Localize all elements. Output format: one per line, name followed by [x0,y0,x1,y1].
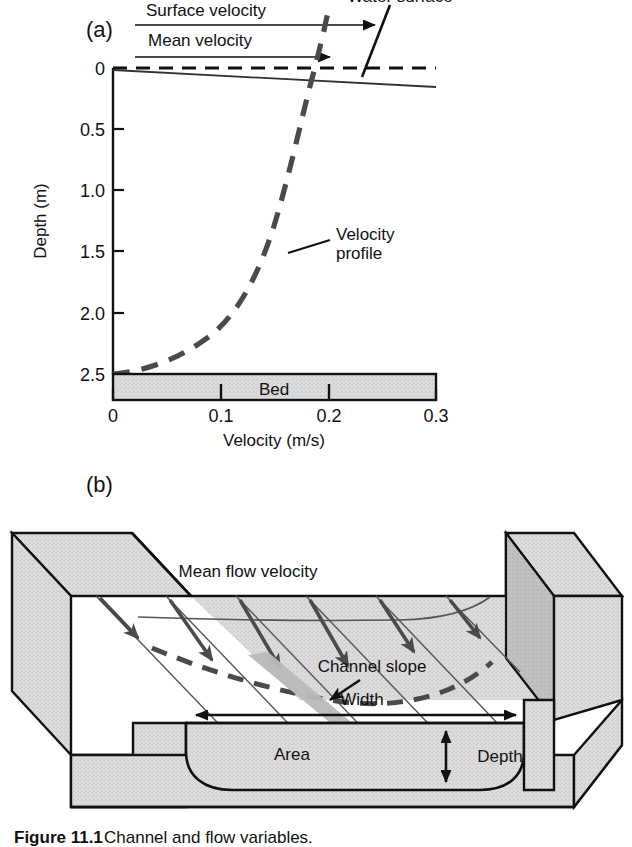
y-tick-label-1: 0.5 [80,120,105,140]
depth-label: Depth [477,747,522,766]
x-tick-label-3: 0.3 [423,406,448,426]
x-tick-label-1: 0.1 [208,406,233,426]
surface-velocity-label: Surface velocity [146,1,266,20]
figure-svg: (a) Surface velocity Mean velocity Water… [0,0,632,847]
caption-bold-part: Figure 11.1 [14,828,103,847]
right-outer-face [554,596,622,720]
y-tick-label-0: 0 [95,59,105,79]
panel-b-label: (b) [86,472,113,497]
velocity-profile-label-line1: Velocity [336,225,395,244]
near-right-bank-face [524,700,554,790]
y-tick-label-5: 2.5 [80,365,105,385]
y-tick-label-2: 1.0 [80,181,105,201]
area-label: Area [274,745,310,764]
mean-flow-velocity-label: Mean flow velocity [179,562,318,581]
x-tick-label-0: 0 [108,406,118,426]
water-surface-label: Water surface [347,0,452,6]
y-tick-label-3: 1.5 [80,242,105,262]
mean-velocity-label: Mean velocity [148,31,252,50]
caption-rest-part: Channel and flow variables. [104,828,313,847]
width-label: Width [340,690,383,709]
x-tick-label-2: 0.2 [316,406,341,426]
x-axis-title: Velocity (m/s) [223,431,325,450]
y-tick-label-4: 2.0 [80,304,105,324]
y-axis-title: Depth (m) [31,183,50,259]
channel-slope-label: Channel slope [318,657,427,676]
figure-root: (a) Surface velocity Mean velocity Water… [0,0,632,847]
bed-label: Bed [259,380,289,399]
panel-a-label: (a) [86,17,113,42]
velocity-profile-label-line2: profile [336,244,382,263]
figure-caption: Figure 11.1 Channel and flow variables. [14,828,313,847]
channel-cross-section-area [186,723,524,790]
